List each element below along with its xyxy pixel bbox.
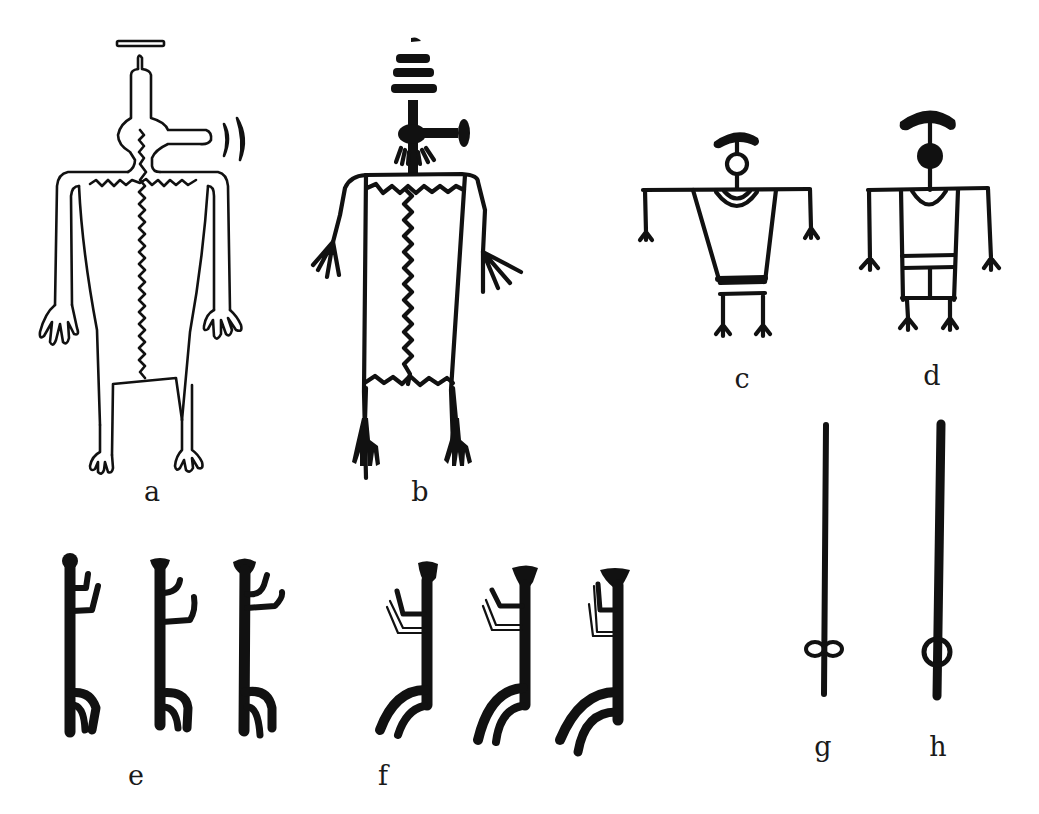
label-d: d	[923, 362, 940, 389]
figure-d-drawing	[861, 110, 999, 330]
label-f: f	[378, 762, 388, 789]
figure-e-drawing	[62, 553, 282, 735]
label-h: h	[929, 733, 946, 760]
petroglyph-plate: a b c d e f g h	[0, 0, 1039, 814]
label-b: b	[411, 478, 428, 505]
figure-a-drawing	[40, 41, 244, 474]
label-g: g	[814, 733, 831, 760]
figure-f-drawing	[380, 561, 630, 752]
label-e: e	[128, 762, 144, 789]
figure-g-drawing	[806, 425, 842, 694]
label-a: a	[144, 478, 160, 505]
label-c: c	[734, 365, 749, 392]
figure-b-drawing	[313, 37, 521, 478]
figure-c-drawing	[640, 132, 818, 336]
figure-h-drawing	[924, 424, 950, 696]
